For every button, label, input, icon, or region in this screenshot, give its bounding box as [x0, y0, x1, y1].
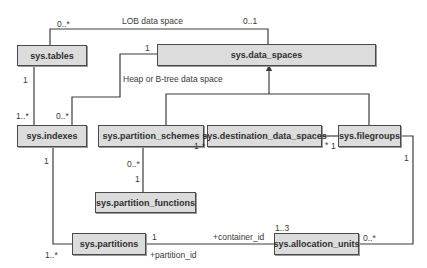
entity-sys-indexes[interactable]: sys.indexes: [17, 125, 87, 147]
mult-indexes-heap: 0..*: [56, 112, 69, 121]
mult-tables-indexes: 1: [23, 76, 28, 85]
entity-sys-tables[interactable]: sys.tables: [17, 45, 87, 66]
mult-partitions-indexes: 1..*: [45, 251, 58, 260]
mult-schemes-functions: 0..*: [127, 160, 140, 169]
mult-dest-filegroups: *: [325, 141, 328, 150]
inheritance-connector: [166, 94, 369, 125]
inheritance-arrow-icon: [267, 66, 272, 71]
mult-schemes-dest: 1: [194, 142, 199, 151]
mult-dest-schemes: *: [202, 142, 205, 151]
entity-sys-destination-data-spaces[interactable]: sys.destination_data_spaces: [207, 125, 322, 147]
mult-functions-schemes: 1: [135, 175, 140, 184]
mult-alloc-filegroups: 0..*: [363, 234, 376, 243]
mult-indexes-partitions: 1: [44, 157, 49, 166]
mult-filegroups-dest: 1: [331, 142, 336, 151]
mult-alloc-partitions: 1..3: [275, 224, 289, 233]
mult-indexes-tables: 1..*: [16, 112, 29, 121]
mult-tables-lob: 0..*: [57, 20, 70, 29]
entity-sys-partition-schemes[interactable]: sys.partition_schemes: [98, 125, 204, 147]
entity-sys-partitions[interactable]: sys.partitions: [72, 233, 146, 255]
entity-sys-data-spaces[interactable]: sys.data_spaces: [157, 44, 376, 66]
mult-data-spaces-heap: 1: [145, 44, 150, 53]
entity-sys-allocation-units[interactable]: sys.allocation_units: [274, 233, 359, 255]
label-container-id: +container_id: [213, 233, 264, 242]
label-partition-id: +partition_id: [150, 251, 197, 260]
mult-partitions-alloc: 1: [152, 233, 157, 242]
indexes-partitions-connector: [53, 147, 72, 244]
label-lob-data-space: LOB data space: [122, 17, 183, 26]
mult-data-spaces-lob: 0..1: [243, 17, 257, 26]
entity-sys-partition-functions[interactable]: sys.partition_functions: [95, 192, 196, 213]
mult-filegroups-alloc: 1: [404, 154, 409, 163]
lob-connector: [50, 29, 268, 45]
er-diagram: sys.tables sys.data_spaces sys.indexes s…: [0, 0, 427, 268]
label-heap-btree-data-space: Heap or B-tree data space: [123, 75, 223, 84]
entity-sys-filegroups[interactable]: sys.filegroups: [338, 125, 401, 147]
